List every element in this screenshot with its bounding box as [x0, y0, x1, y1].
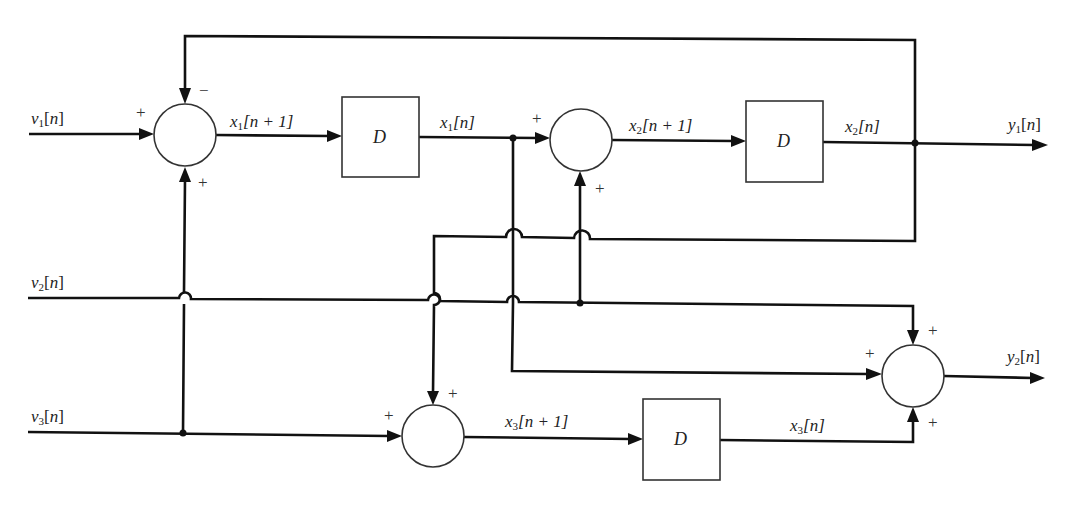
- arrow-y2-output: [1030, 372, 1045, 384]
- x2-to-sum3-wire: [433, 143, 915, 393]
- signal-x2-next-label: x2[n + 1]: [629, 117, 692, 136]
- arrow-into-sum2-bottom: [574, 171, 586, 186]
- v3-to-sum1-wire: [183, 180, 185, 433]
- input-v2-label: v2[n]: [31, 274, 64, 293]
- summing-junction-3: [402, 405, 464, 467]
- x2-next-wire: [612, 140, 734, 141]
- arrow-into-d1: [327, 130, 342, 142]
- arrow-into-sum4-bottom: [907, 407, 919, 422]
- signal-x1-label: x1[n]: [440, 114, 475, 133]
- delay-1-label: D: [373, 128, 386, 146]
- sum2-sign-bottom: +: [595, 180, 605, 197]
- output-y2-label: y2[n]: [1007, 348, 1040, 367]
- sum2-sign-left: +: [532, 110, 542, 127]
- arrow-into-sum4-top: [907, 330, 919, 345]
- summing-junction-4: [882, 345, 944, 407]
- signal-x1-next-label: x1[n + 1]: [230, 113, 293, 132]
- arrow-into-sum4-left: [866, 368, 882, 380]
- output-y1-label: y1[n]: [1008, 116, 1041, 135]
- summing-junction-1: [154, 104, 216, 166]
- x2-y1-wire: [823, 142, 1035, 145]
- block-diagram-canvas: [0, 0, 1078, 509]
- sum1-sign-top: −: [199, 82, 209, 99]
- input-v1-label: v1[n]: [31, 110, 64, 129]
- v2-wire: [28, 292, 913, 332]
- arrow-into-sum3-top: [427, 391, 439, 405]
- delay-3-label: D: [674, 430, 687, 448]
- sum4-sign-left: +: [865, 345, 875, 362]
- v3-wire: [28, 432, 389, 436]
- sum1-sign-left: +: [136, 104, 146, 121]
- signal-x2-label: x2[n]: [845, 118, 880, 137]
- sum3-sign-left: +: [384, 407, 394, 424]
- arrow-into-sum1-bottom: [179, 167, 191, 182]
- arrow-into-sum1-top: [179, 88, 191, 104]
- x1-next-wire: [216, 135, 330, 136]
- arrow-into-sum3-left: [387, 430, 402, 442]
- input-v3-label: v3[n]: [31, 408, 64, 427]
- arrow-into-sum1-left: [139, 128, 154, 140]
- x3-next-wire: [464, 437, 631, 439]
- delay-2-label: D: [777, 132, 790, 150]
- arrow-into-sum2-left: [535, 132, 550, 144]
- arrow-into-d2: [731, 135, 746, 147]
- sum1-sign-bottom: +: [198, 174, 208, 191]
- sum4-sign-top: +: [928, 322, 938, 339]
- arrow-into-d3: [628, 433, 643, 445]
- arrow-y1-output: [1032, 139, 1048, 151]
- y2-wire: [944, 376, 1033, 378]
- x1-wire: [419, 137, 538, 138]
- signal-x3-next-label: x3[n + 1]: [505, 413, 568, 432]
- signal-x3-label: x3[n]: [790, 417, 825, 436]
- summing-junction-2: [550, 109, 612, 171]
- sum3-sign-top: +: [448, 385, 458, 402]
- sum4-sign-bottom: +: [928, 414, 938, 431]
